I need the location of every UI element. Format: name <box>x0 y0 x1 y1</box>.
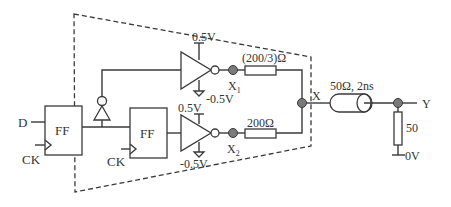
transmission-line <box>330 94 398 112</box>
top-driver <box>181 43 219 96</box>
bottom-driver-vminus: -0.5V <box>180 157 208 171</box>
bottom-resistor <box>245 129 276 138</box>
ck2-label: CK <box>107 154 126 169</box>
bottom-resistor-label: 200Ω <box>247 116 274 130</box>
circuit-diagram: D FF CK FF CK 0.5V -0.5V X1 <box>0 0 451 207</box>
bottom-driver-vplus: 0.5V <box>178 101 202 115</box>
flipflop-1: FF <box>35 106 82 155</box>
x1-label: X1 <box>228 79 241 95</box>
load-resistor-label: 50 <box>406 121 418 135</box>
y-label: Y <box>422 97 431 111</box>
top-resistor-label: (200/3)Ω <box>242 51 286 65</box>
ground-icon <box>194 91 204 96</box>
inverter-bubble-icon <box>211 66 219 74</box>
y-node <box>394 99 403 108</box>
x-node <box>298 99 307 108</box>
top-driver-vminus: -0.5V <box>206 92 234 106</box>
flipflop-1-label: FF <box>55 123 69 138</box>
transmission-line-label: 50Ω, 2ns <box>330 79 374 93</box>
x-label: X <box>312 89 321 103</box>
inverter-bubble-icon <box>211 129 219 137</box>
ground-label: 0V <box>405 149 420 163</box>
top-driver-vplus: 0.5V <box>192 30 216 44</box>
x2-node <box>229 129 238 138</box>
d-input-label: D <box>18 115 27 130</box>
bottom-driver <box>181 114 219 157</box>
flipflop-2-label: FF <box>140 126 154 141</box>
x2-label: X2 <box>227 142 240 158</box>
load-resistor <box>394 112 402 145</box>
x1-node <box>229 66 238 75</box>
top-resistor <box>245 66 276 75</box>
ck1-label: CK <box>22 152 41 167</box>
inverter-bubble-icon <box>98 97 107 106</box>
flipflop-2: FF <box>121 108 167 158</box>
